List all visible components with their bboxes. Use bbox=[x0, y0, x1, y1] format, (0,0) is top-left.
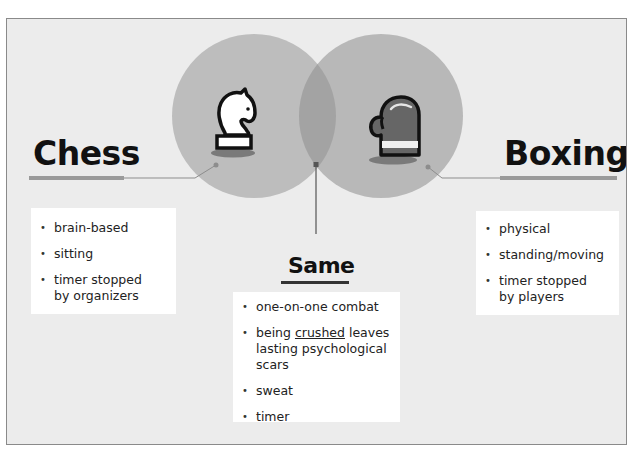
list-item: standing/moving bbox=[482, 247, 613, 263]
boxing-list-card: physical standing/moving timer stopped b… bbox=[476, 211, 619, 315]
same-list-card: one-on-one combat being crushed leaves l… bbox=[233, 292, 400, 422]
list-item: being crushed leaves lasting psychologic… bbox=[239, 325, 394, 373]
chess-list-card: brain-based sitting timer stopped by org… bbox=[31, 208, 176, 314]
chess-title: Chess bbox=[33, 137, 140, 170]
chess-underline bbox=[29, 176, 124, 180]
same-underline bbox=[281, 281, 349, 284]
list-item: timer stopped by players bbox=[482, 273, 599, 305]
list-item: timer bbox=[239, 409, 394, 425]
venn-diagram-frame: Chess Boxing Same brain-based sitting ti… bbox=[6, 18, 627, 445]
list-item: timer stopped by organizers bbox=[37, 272, 154, 304]
same-title: Same bbox=[288, 255, 355, 277]
list-item: brain-based bbox=[37, 220, 170, 236]
list-item: one-on-one combat bbox=[239, 299, 394, 315]
list-item: sweat bbox=[239, 383, 394, 399]
list-item: physical bbox=[482, 221, 613, 237]
boxing-underline bbox=[500, 176, 617, 180]
list-item: sitting bbox=[37, 246, 170, 262]
item-text: being bbox=[256, 325, 295, 340]
underlined-word: crushed bbox=[295, 325, 345, 340]
boxing-title: Boxing bbox=[504, 137, 627, 170]
